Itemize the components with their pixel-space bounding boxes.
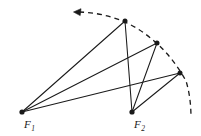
segment-f1-p1 [22,21,125,112]
points-group [19,19,182,115]
focus-f2-label-letter: F [133,118,141,130]
point-p2-dot [155,41,160,46]
point-p3-dot [178,71,183,76]
focus-f1-label-letter: F [23,118,31,130]
arrow-head-icon [74,9,82,16]
point-p1-dot [123,19,128,24]
focus-f2-label: F2 [133,118,145,133]
segment-f2-p1 [125,21,132,112]
labels-group: F1 F2 [23,118,145,133]
focus-f2-label-subscript: 2 [141,124,145,133]
geometry-figure: F1 F2 [0,0,201,136]
focus-f1-dot [19,109,24,114]
segments-group [22,21,180,112]
focus-f1-label-subscript: 1 [31,124,35,133]
focus-f1-label: F1 [23,118,35,133]
focus-f2-dot [129,109,134,114]
dashed-arc [79,12,191,118]
figure-canvas: F1 F2 [0,0,201,136]
segment-f1-p2 [22,43,157,112]
